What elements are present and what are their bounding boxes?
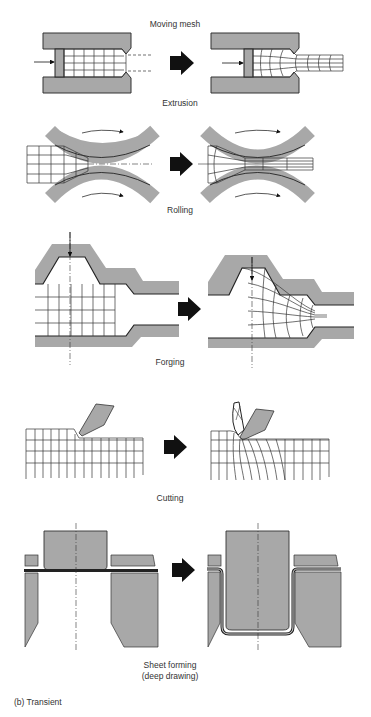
transition-arrow-icon bbox=[170, 152, 193, 176]
transition-arrow-icon bbox=[164, 435, 187, 459]
blank-holder-left bbox=[25, 555, 38, 566]
forging-mesh bbox=[35, 284, 115, 336]
extrusion-ram bbox=[55, 49, 64, 77]
forging-upper-die bbox=[35, 244, 179, 294]
cutting-chip bbox=[233, 402, 244, 435]
cutting-after bbox=[211, 402, 329, 480]
cutting-before bbox=[26, 404, 143, 479]
forging-before bbox=[35, 232, 179, 365]
extrusion-before bbox=[34, 33, 152, 93]
die-right bbox=[111, 573, 158, 647]
roll-bottom bbox=[50, 173, 155, 199]
transition-arrow-icon bbox=[172, 558, 195, 582]
die-left bbox=[25, 573, 38, 647]
transition-arrow-icon bbox=[178, 297, 201, 321]
extrusion-dashed-guides bbox=[128, 55, 152, 71]
sheet-forming-before bbox=[24, 523, 158, 650]
sheet-blank bbox=[24, 569, 158, 572]
extrusion-after bbox=[211, 33, 343, 93]
rolling-before bbox=[27, 130, 155, 198]
extrusion-mesh bbox=[64, 49, 126, 77]
transition-arrow-icon bbox=[170, 51, 194, 75]
cutting-mesh bbox=[26, 429, 143, 479]
diagram-canvas bbox=[0, 0, 371, 717]
cutting-tool bbox=[79, 404, 114, 436]
sheet-forming-after bbox=[207, 523, 341, 652]
forging-after bbox=[208, 255, 354, 368]
blank-holder-right bbox=[111, 555, 155, 566]
punch bbox=[44, 531, 107, 570]
rolling-after bbox=[198, 130, 313, 198]
